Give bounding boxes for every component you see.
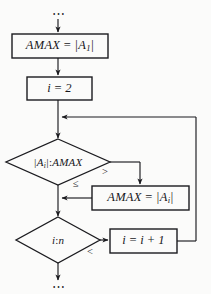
node-set-amax-label: AMAX = |Ai| <box>92 191 189 205</box>
flowchart-diagram: ⋯ AMAX = |A1| i = 2 |Ai|:AMAX AMAX = |Ai… <box>0 0 211 294</box>
branch-label-less-equal: ≤ <box>73 178 79 189</box>
node-compare-abs-label: |Ai|:AMAX <box>8 157 108 170</box>
top-ellipsis-label: ⋯ <box>50 6 68 22</box>
branch-label-less-than: < <box>87 246 93 257</box>
bottom-ellipsis-label: ⋯ <box>50 279 68 294</box>
node-compare-in-label: i:n <box>38 235 78 246</box>
node-init-i-label: i = 2 <box>27 82 92 95</box>
node-init-amax-label: AMAX = |A1| <box>12 39 108 53</box>
node-increment-i-label: i = i + 1 <box>110 234 177 247</box>
branch-label-greater-than: > <box>102 166 108 177</box>
